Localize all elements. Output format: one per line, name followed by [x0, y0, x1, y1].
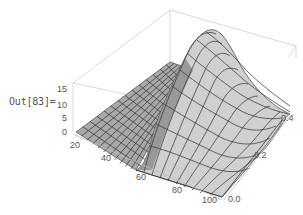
y-tick-0.0: 0.0	[228, 194, 241, 204]
x-tick-80: 80	[172, 185, 182, 195]
x-tick-20: 20	[70, 140, 80, 150]
z-tick-0: 0	[62, 127, 67, 137]
x-tick-60: 60	[136, 172, 146, 182]
x-tick-40: 40	[101, 153, 111, 163]
y-tick-0.4: 0.4	[281, 113, 294, 123]
z-tick-5: 5	[62, 113, 67, 123]
z-axis: 15 10 5 0	[57, 84, 67, 137]
z-tick-10: 10	[57, 100, 67, 110]
surface-plot-3d[interactable]: 15 10 5 0 20 40 60 80 100 0.0 0.2 0.4	[0, 0, 303, 215]
z-tick-15: 15	[57, 84, 67, 94]
x-tick-100: 100	[202, 195, 217, 205]
y-tick-0.2: 0.2	[254, 150, 267, 160]
